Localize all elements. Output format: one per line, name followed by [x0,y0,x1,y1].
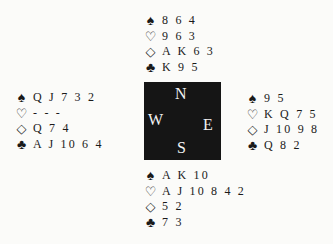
diamond-icon: ◇ [142,44,159,59]
west-diamonds-row: ◇Q 7 4 [13,121,104,137]
north-spades: 8 6 4 [159,13,197,29]
south-diamonds-row: ◇5 2 [142,199,246,215]
compass-west-label: W [148,112,163,128]
south-hearts: A J 10 8 4 2 [159,184,246,200]
north-diamonds-row: ◇A K 6 3 [142,44,215,60]
west-diamonds: Q 7 4 [30,121,71,137]
club-icon: ♣ [244,138,261,153]
diamond-icon: ◇ [142,199,159,214]
west-hearts-row: ♡- - - [13,106,104,122]
west-spades: Q J 7 3 2 [30,90,96,106]
west-hand: ♠Q J 7 3 2 ♡- - - ◇Q 7 4 ♣A J 10 6 4 [13,90,104,152]
north-clubs-row: ♣K 9 5 [142,60,215,76]
south-hand: ♠A K 10 ♡A J 10 8 4 2 ◇5 2 ♣7 3 [142,168,246,230]
east-clubs: Q 8 2 [261,138,302,154]
north-spades-row: ♠8 6 4 [142,13,215,29]
spade-icon: ♠ [142,168,159,183]
compass-south-label: S [177,140,186,156]
club-icon: ♣ [142,215,159,230]
east-hand: ♠9 5 ♡K Q 7 5 ◇J 10 9 8 ♣Q 8 2 [244,91,319,153]
compass-east-label: E [203,117,213,133]
north-diamonds: A K 6 3 [159,44,215,60]
north-hearts: 9 6 3 [159,29,197,45]
club-icon: ♣ [142,60,159,75]
spade-icon: ♠ [142,13,159,28]
west-clubs-row: ♣A J 10 6 4 [13,137,104,153]
east-diamonds-row: ◇J 10 9 8 [244,122,319,138]
compass-north-label: N [175,86,187,102]
south-clubs-row: ♣7 3 [142,215,246,231]
west-spades-row: ♠Q J 7 3 2 [13,90,104,106]
north-clubs: K 9 5 [159,60,200,76]
heart-icon: ♡ [13,106,30,121]
east-hearts: K Q 7 5 [261,107,318,123]
heart-icon: ♡ [244,107,261,122]
heart-icon: ♡ [142,184,159,199]
east-spades: 9 5 [261,91,286,107]
club-icon: ♣ [13,137,30,152]
west-clubs: A J 10 6 4 [30,137,104,153]
east-diamonds: J 10 9 8 [261,122,319,138]
heart-icon: ♡ [142,29,159,44]
compass-table: N W E S [144,82,221,160]
east-clubs-row: ♣Q 8 2 [244,138,319,154]
east-hearts-row: ♡K Q 7 5 [244,107,319,123]
south-spades-row: ♠A K 10 [142,168,246,184]
north-hand: ♠8 6 4 ♡9 6 3 ◇A K 6 3 ♣K 9 5 [142,13,215,75]
west-hearts: - - - [30,106,62,122]
spade-icon: ♠ [13,90,30,105]
diamond-icon: ◇ [13,121,30,136]
spade-icon: ♠ [244,91,261,106]
south-hearts-row: ♡A J 10 8 4 2 [142,184,246,200]
south-diamonds: 5 2 [159,199,184,215]
east-spades-row: ♠9 5 [244,91,319,107]
diamond-icon: ◇ [244,122,261,137]
south-clubs: 7 3 [159,215,184,231]
south-spades: A K 10 [159,168,210,184]
north-hearts-row: ♡9 6 3 [142,29,215,45]
